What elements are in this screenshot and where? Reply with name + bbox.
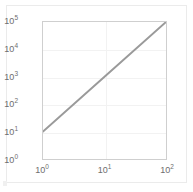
y-tick-label: 104 <box>0 45 18 54</box>
tick-exponent: 3 <box>14 70 18 77</box>
tick-exponent: 5 <box>14 14 18 21</box>
y-tick-label: 103 <box>0 73 18 82</box>
tick-mantissa: 10 <box>160 165 170 175</box>
corner-artifact <box>3 181 7 186</box>
tick-mantissa: 10 <box>4 44 14 54</box>
tick-exponent: 0 <box>45 163 49 170</box>
tick-exponent: 2 <box>14 97 18 104</box>
tick-exponent: 2 <box>170 163 174 170</box>
tick-mantissa: 10 <box>4 72 14 82</box>
tick-exponent: 4 <box>14 42 18 49</box>
tick-mantissa: 10 <box>4 127 14 137</box>
chart-figure: 100101102103104105 100101102 <box>0 0 193 192</box>
tick-mantissa: 10 <box>35 165 45 175</box>
tick-mantissa: 10 <box>4 16 14 26</box>
x-tick-label: 100 <box>22 166 62 175</box>
data-series-line <box>43 22 166 159</box>
y-tick-label: 105 <box>0 17 18 26</box>
tick-exponent: 1 <box>14 125 18 132</box>
x-tick-label: 101 <box>85 166 125 175</box>
tick-mantissa: 10 <box>98 165 108 175</box>
x-tick-label: 102 <box>147 166 187 175</box>
tick-mantissa: 10 <box>4 99 14 109</box>
y-tick-label: 101 <box>0 128 18 137</box>
tick-mantissa: 10 <box>4 155 14 165</box>
tick-exponent: 0 <box>14 153 18 160</box>
tick-exponent: 1 <box>108 163 112 170</box>
y-tick-label: 100 <box>0 156 18 165</box>
y-tick-label: 102 <box>0 100 18 109</box>
plot-area <box>42 21 167 160</box>
series-line-power-law <box>43 22 166 132</box>
